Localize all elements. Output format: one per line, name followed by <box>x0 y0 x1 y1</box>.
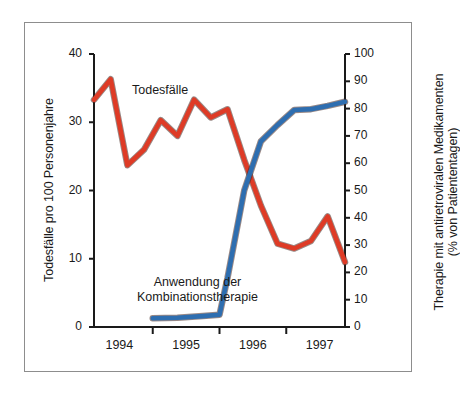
y-axis-right-tick-label: 30 <box>354 237 384 251</box>
y-axis-left-tick-label: 40 <box>52 46 82 60</box>
y-axis-right-title-line2: (% von Patiententagen) <box>446 67 460 317</box>
y-axis-right-tick-label: 0 <box>354 319 384 333</box>
y-axis-right-title-line1: Therapie mit antiretroviralen Medikament… <box>432 74 446 311</box>
y-axis-left-tick-label: 30 <box>52 114 82 128</box>
y-axis-left-tick-label: 10 <box>52 251 82 265</box>
x-axis-tick-label: 1995 <box>161 338 211 352</box>
y-axis-right-tick-label: 90 <box>354 73 384 87</box>
annotation-deaths: Todesfälle <box>132 83 188 97</box>
y-axis-right-tick-label: 10 <box>354 292 384 306</box>
annotation-therapy-line2: Kombinationstherapie <box>120 290 275 305</box>
x-axis-tick-label: 1996 <box>228 338 278 352</box>
y-axis-right-tick-label: 50 <box>354 183 384 197</box>
y-axis-right-tick-label: 60 <box>354 155 384 169</box>
y-axis-right-title: Therapie mit antiretroviralen Medikament… <box>432 67 460 317</box>
y-axis-right-tick-label: 80 <box>354 101 384 115</box>
y-axis-left-tick-label: 20 <box>52 183 82 197</box>
x-axis-tick-label: 1994 <box>94 338 144 352</box>
figure-border: Todesfälle pro 100 Personenjahre Therapi… <box>24 22 412 372</box>
annotation-therapy-line1: Anwendung der <box>154 275 242 289</box>
x-axis-tick-label: 1997 <box>295 338 345 352</box>
y-axis-right-tick-label: 40 <box>354 210 384 224</box>
y-axis-right-tick-label: 100 <box>354 46 384 60</box>
y-axis-left-tick-label: 0 <box>52 319 82 333</box>
annotation-therapy: Anwendung derKombinationstherapie <box>120 275 275 305</box>
y-axis-right-tick-label: 20 <box>354 264 384 278</box>
y-axis-right-tick-label: 70 <box>354 128 384 142</box>
